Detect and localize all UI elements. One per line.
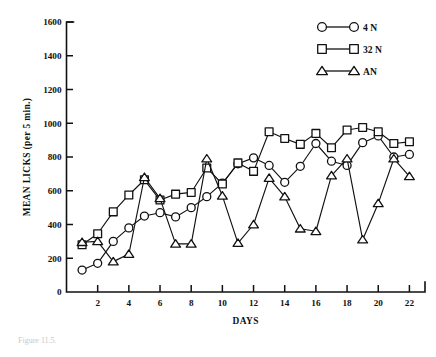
data-point-triangle bbox=[249, 220, 259, 227]
data-series-group bbox=[77, 124, 414, 274]
figure-caption: Figure 11.5. bbox=[18, 336, 57, 345]
data-point-triangle bbox=[295, 225, 305, 232]
y-axis-title: MEAN LICKS (per 5 min.) bbox=[22, 98, 33, 217]
series-an bbox=[77, 154, 414, 264]
data-point-circle bbox=[265, 161, 273, 169]
mean-licks-line-chart: 02004006008001000120014001600 2468101214… bbox=[0, 0, 436, 357]
y-tick-label: 800 bbox=[48, 152, 62, 162]
data-point-triangle bbox=[108, 257, 118, 264]
data-point-circle bbox=[312, 140, 320, 148]
data-point-triangle bbox=[373, 199, 383, 206]
data-point-circle bbox=[281, 178, 289, 186]
x-tick-label: 22 bbox=[405, 298, 415, 308]
legend-marker-circle bbox=[350, 23, 359, 32]
y-tick-label: 1000 bbox=[43, 119, 62, 129]
data-point-square bbox=[109, 208, 117, 216]
data-point-triangle bbox=[202, 154, 212, 161]
data-point-circle bbox=[140, 212, 148, 220]
data-point-square bbox=[343, 126, 351, 134]
data-point-circle bbox=[250, 154, 258, 162]
x-tick-label: 8 bbox=[189, 298, 194, 308]
series-line bbox=[82, 159, 409, 262]
data-point-circle bbox=[296, 162, 304, 170]
data-point-square bbox=[94, 230, 102, 238]
data-point-circle bbox=[327, 157, 335, 165]
data-point-circle bbox=[125, 224, 133, 232]
x-tick-label: 12 bbox=[249, 298, 259, 308]
legend-item-32-n: 32 N bbox=[318, 44, 382, 55]
x-axis-tick-labels: 246810121416182022 bbox=[95, 298, 414, 308]
data-point-circle bbox=[187, 204, 195, 212]
data-point-triangle bbox=[217, 192, 227, 199]
data-point-square bbox=[234, 159, 242, 167]
data-point-square bbox=[125, 191, 133, 199]
legend-label: 32 N bbox=[363, 44, 382, 55]
y-tick-label: 400 bbox=[48, 220, 62, 230]
x-axis-title: DAYS bbox=[233, 316, 259, 326]
data-point-square bbox=[328, 144, 336, 152]
x-tick-label: 14 bbox=[280, 298, 290, 308]
data-point-triangle bbox=[280, 192, 290, 199]
data-point-square bbox=[281, 135, 289, 143]
data-point-square bbox=[265, 128, 273, 136]
data-point-square bbox=[218, 180, 226, 188]
legend-item-an: AN bbox=[317, 66, 377, 77]
data-point-circle bbox=[78, 266, 86, 274]
figure-container: 02004006008001000120014001600 2468101214… bbox=[0, 0, 436, 357]
x-tick-label: 6 bbox=[158, 298, 163, 308]
data-point-square bbox=[312, 129, 320, 137]
legend-marker-square bbox=[318, 45, 327, 54]
data-point-square bbox=[187, 189, 195, 197]
x-tick-label: 4 bbox=[127, 298, 132, 308]
legend-item-4-n: 4 N bbox=[318, 22, 378, 33]
data-point-square bbox=[406, 138, 414, 146]
chart-legend: 4 N32 NAN bbox=[317, 22, 382, 77]
data-point-circle bbox=[109, 237, 117, 245]
data-point-triangle bbox=[342, 154, 352, 161]
x-tick-label: 20 bbox=[374, 298, 384, 308]
data-point-triangle bbox=[124, 250, 134, 257]
data-point-triangle bbox=[358, 235, 368, 242]
x-tick-label: 18 bbox=[342, 298, 352, 308]
y-tick-label: 0 bbox=[57, 287, 62, 297]
data-point-triangle bbox=[264, 174, 274, 181]
data-point-square bbox=[296, 140, 304, 148]
y-tick-label: 1600 bbox=[43, 17, 62, 27]
legend-label: AN bbox=[363, 66, 377, 77]
data-point-square bbox=[390, 140, 398, 148]
axis-lines bbox=[67, 22, 426, 292]
data-point-square bbox=[172, 190, 180, 198]
y-axis-tick-labels: 02004006008001000120014001600 bbox=[43, 17, 62, 297]
y-tick-label: 1400 bbox=[43, 51, 62, 61]
x-axis-ticks bbox=[98, 285, 410, 292]
data-point-circle bbox=[405, 150, 413, 158]
y-tick-label: 1200 bbox=[43, 85, 62, 95]
x-tick-label: 10 bbox=[218, 298, 228, 308]
y-tick-label: 200 bbox=[48, 254, 62, 264]
y-tick-label: 600 bbox=[48, 186, 62, 196]
legend-marker-square bbox=[350, 45, 359, 54]
data-point-circle bbox=[94, 259, 102, 267]
data-point-circle bbox=[203, 193, 211, 201]
y-axis-ticks bbox=[67, 22, 74, 258]
data-point-triangle bbox=[233, 239, 243, 246]
data-point-circle bbox=[172, 213, 180, 221]
data-point-square bbox=[374, 128, 382, 136]
data-point-circle bbox=[359, 139, 367, 147]
x-tick-label: 16 bbox=[311, 298, 321, 308]
legend-label: 4 N bbox=[363, 22, 377, 33]
series-line bbox=[82, 136, 409, 270]
legend-marker-circle bbox=[318, 23, 327, 32]
data-point-circle bbox=[156, 209, 164, 217]
data-point-circle bbox=[343, 161, 351, 169]
x-tick-label: 2 bbox=[95, 298, 100, 308]
data-point-square bbox=[250, 167, 258, 175]
data-point-square bbox=[359, 124, 367, 132]
